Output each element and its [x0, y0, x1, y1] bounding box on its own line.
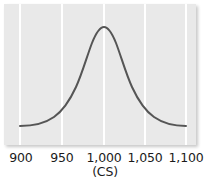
- x-tick-label-1050: 1,050: [128, 150, 163, 165]
- plot-area: [4, 4, 196, 145]
- x-axis-title: (CS): [0, 164, 210, 179]
- chart-figure: 900 950 1,000 1,050 1,100 (CS): [0, 0, 210, 180]
- plot-svg: [4, 4, 196, 145]
- gridlines: [20, 4, 186, 145]
- x-tick-label-1100: 1,100: [169, 150, 204, 165]
- x-tick-label-1000: 1,000: [87, 150, 122, 165]
- x-tick-label-950: 950: [50, 150, 73, 165]
- x-tick-label-900: 900: [9, 150, 32, 165]
